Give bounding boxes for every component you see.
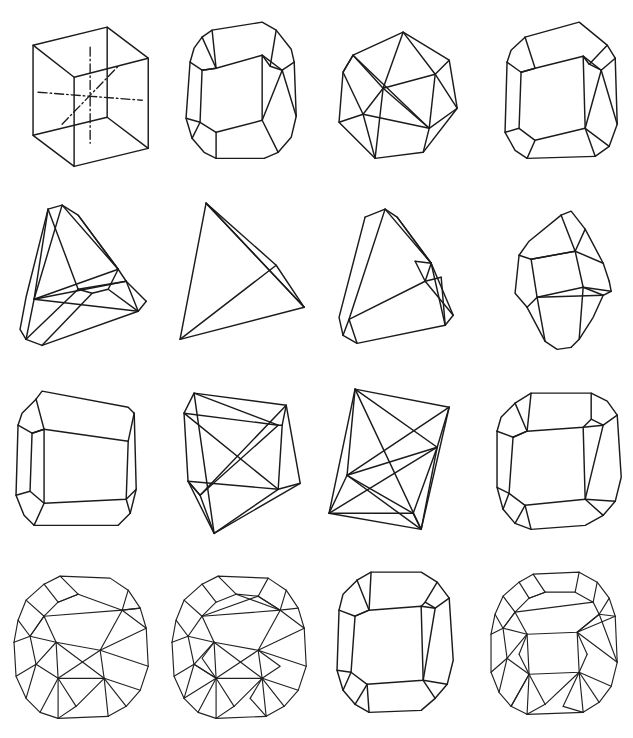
figure-rhombicuboctahedron — [475, 554, 633, 738]
cuboctahedron-drawing — [317, 0, 475, 185]
truncated-cube-drawing — [158, 0, 316, 185]
rhombicuboctahedron-drawing — [475, 554, 633, 738]
figure-corner-clipped-cube — [0, 369, 158, 554]
figure-tetrahedron — [158, 185, 316, 370]
tetrahedron-drawing — [158, 185, 316, 370]
edge-truncated-cube-drawing — [317, 554, 475, 738]
truncated-tetrahedron-drawing — [317, 185, 475, 370]
corner-clipped-cube-drawing — [0, 369, 158, 554]
figure-complex-hexoctahedron — [158, 554, 316, 738]
figure-cube-with-symmetry-axes — [0, 0, 158, 185]
cube-with-symmetry-axes-drawing — [0, 0, 158, 185]
complex-trapezohedron-drawing — [0, 554, 158, 738]
tetragonal-disphenoid-drawing — [317, 369, 475, 554]
figure-complex-trapezohedron — [0, 554, 158, 738]
figure-small-dipyramid — [475, 185, 633, 370]
bevelled-cube-variant-drawing — [475, 369, 633, 554]
figure-truncated-tetrahedron — [317, 185, 475, 370]
figure-corner-truncated-cube — [475, 0, 633, 185]
complex-hexoctahedron-drawing — [158, 554, 316, 738]
figure-cube-with-face-diagonals — [158, 369, 316, 554]
figure-bevelled-cube-variant — [475, 369, 633, 554]
figure-grid — [0, 0, 633, 738]
figure-truncated-cube — [158, 0, 316, 185]
figure-bevelled-tetrahedron — [0, 185, 158, 370]
figure-cuboctahedron — [317, 0, 475, 185]
figure-edge-truncated-cube — [317, 554, 475, 738]
figure-tetragonal-disphenoid — [317, 369, 475, 554]
small-dipyramid-drawing — [475, 185, 633, 370]
cube-with-face-diagonals-drawing — [158, 369, 316, 554]
bevelled-tetrahedron-drawing — [0, 185, 158, 370]
crystal-forms-plate — [0, 0, 633, 738]
corner-truncated-cube-drawing — [475, 0, 633, 185]
